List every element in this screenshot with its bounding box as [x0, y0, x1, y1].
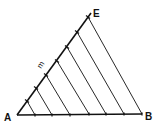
point-label-b: B [145, 111, 152, 122]
parallel-line [27, 101, 35, 115]
parallel-line [46, 75, 70, 115]
point-label-e: E [93, 8, 100, 19]
point-label-a: A [4, 112, 11, 123]
parallel-line [77, 32, 124, 114]
parallel-line [36, 88, 52, 115]
parallel-line [57, 61, 89, 114]
line-division-diagram: A B E m [0, 0, 160, 127]
parallel-line [67, 47, 106, 114]
line-label-m: m [35, 59, 46, 70]
segment-ab [17, 114, 142, 115]
